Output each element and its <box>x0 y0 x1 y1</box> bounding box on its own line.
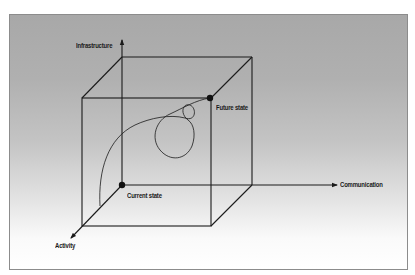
activity-axis-label: Activity <box>55 242 75 249</box>
communication-axis-label: Communication <box>340 181 383 188</box>
diagram-page: Infrastructure Communication Activity Cu… <box>0 0 415 275</box>
current-state-label: Current state <box>127 192 162 199</box>
future-state-label: Future state <box>216 104 248 111</box>
current-state-point <box>119 182 125 188</box>
cube-diagram <box>0 0 415 275</box>
trajectory-curve <box>100 98 210 206</box>
future-state-point <box>207 95 213 101</box>
activity-axis <box>71 185 122 238</box>
infrastructure-axis-label: Infrastructure <box>76 42 112 49</box>
